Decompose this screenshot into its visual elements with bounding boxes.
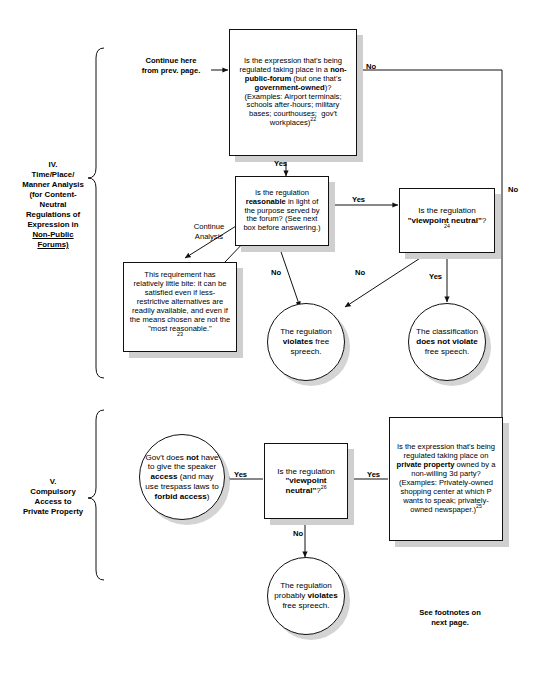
flowchart-canvas: IV. Time/Place/ Manner Analysis (for Con… [0,0,545,682]
section-iv-line-6: Regulations of [12,210,94,220]
edge-label-reasonable-no: No [271,268,281,277]
edge-label-vn-iv-no: No [355,268,365,277]
section-v-line-3: Access to [12,497,94,507]
private-property-question-box[interactable]: Is the expression that's being regulated… [389,417,503,541]
section-iv-line-1: IV. [12,160,94,170]
footnote-24: 24 [444,224,450,230]
edge-vn-iv-no [345,253,428,307]
footer-line-1: See footnotes on [395,608,505,618]
section-label-iv: IV. Time/Place/ Manner Analysis (for Con… [12,160,94,250]
edge-label-reasonable-yes: Yes [352,195,365,204]
section-iv-line-3: Manner Analysis [12,180,94,190]
entry-from-prev-page-label: Continue here from prev. page. [128,56,214,76]
continue-analysis-line-1: Continue [178,222,240,232]
section-iv-line-8: Non-Public [32,230,73,239]
viewpoint-neutral-question-iv-box[interactable]: Is the regulation "viewpoint neutral"?24 [399,188,495,253]
entry-label-line-2: from prev. page. [128,66,214,76]
footer-line-2: next page. [395,618,505,628]
entry-label-line-1: Continue here [128,56,214,66]
continue-analysis-line-2: Analysis [178,232,240,242]
section-v-line-1: V. [12,477,94,487]
edge-label-npf-no: No [366,62,376,71]
probably-violates-text: The regulation probably violates free sp… [271,581,341,610]
viewpoint-neutral-question-v-box[interactable]: Is the regulation "viewpoint neutral"?26 [264,443,348,519]
section-v-line-4: Private Property [12,507,94,517]
no-access-text: Gov't does not have to give the speaker … [145,453,219,502]
section-iv-line-5: Neutral [12,200,94,210]
footnotes-reference-note: See footnotes on next page. [395,608,505,628]
section-v-line-2: Compulsory [12,487,94,497]
does-not-violate-circle[interactable]: The classification does not violate free… [408,303,486,381]
footnote-23: 23 [177,331,183,337]
reasonable-question-box[interactable]: Is the regulation reasonable in light of… [235,176,329,246]
section-iv-line-7: Expression in [12,220,94,230]
section-label-v: V. Compulsory Access to Private Property [12,477,94,517]
little-bite-explainer-text: This requirement has relatively little b… [129,271,231,343]
continue-analysis-label: Continue Analysis [178,222,240,242]
section-iv-line-9: Forums) [37,240,68,249]
non-public-forum-question-text: Is the expression that's being regulated… [235,57,351,129]
edge-label-vn-iv-yes: Yes [429,272,442,281]
edge-reasonable-no [279,246,300,307]
private-property-question-text: Is the expression that's being regulated… [395,443,497,515]
violates-free-speech-text: The regulation violates free spreech. [271,327,341,356]
little-bite-explainer-box[interactable]: This requirement has relatively little b… [123,262,237,352]
does-not-violate-text: The classification does not violate free… [414,327,480,356]
viewpoint-neutral-v-text: Is the regulation "viewpoint neutral"?26 [270,467,342,496]
no-access-circle[interactable]: Gov't does not have to give the speaker … [139,434,225,520]
section-iv-line-4: (for Content- [12,190,94,200]
section-iv-line-2: Time/Place/ [12,170,94,180]
reasonable-question-text: Is the regulation reasonable in light of… [241,189,323,234]
edge-label-vn-v-yes: Yes [234,470,247,479]
edge-label-pp-yes: Yes [367,470,380,479]
footnote-26: 26 [321,484,327,490]
edge-label-npf-yes: Yes [274,159,287,168]
violates-free-speech-circle[interactable]: The regulation violates free spreech. [267,303,345,381]
footnote-25: 25 [476,503,482,509]
edge-label-vn-v-no: No [293,529,303,538]
edge-label-right-rail-no: No [508,185,518,194]
viewpoint-neutral-iv-text: Is the regulation "viewpoint neutral"?24 [405,206,489,235]
non-public-forum-question-box[interactable]: Is the expression that's being regulated… [229,29,357,156]
footnote-22: 22 [310,117,316,123]
probably-violates-circle[interactable]: The regulation probably violates free sp… [267,557,345,635]
